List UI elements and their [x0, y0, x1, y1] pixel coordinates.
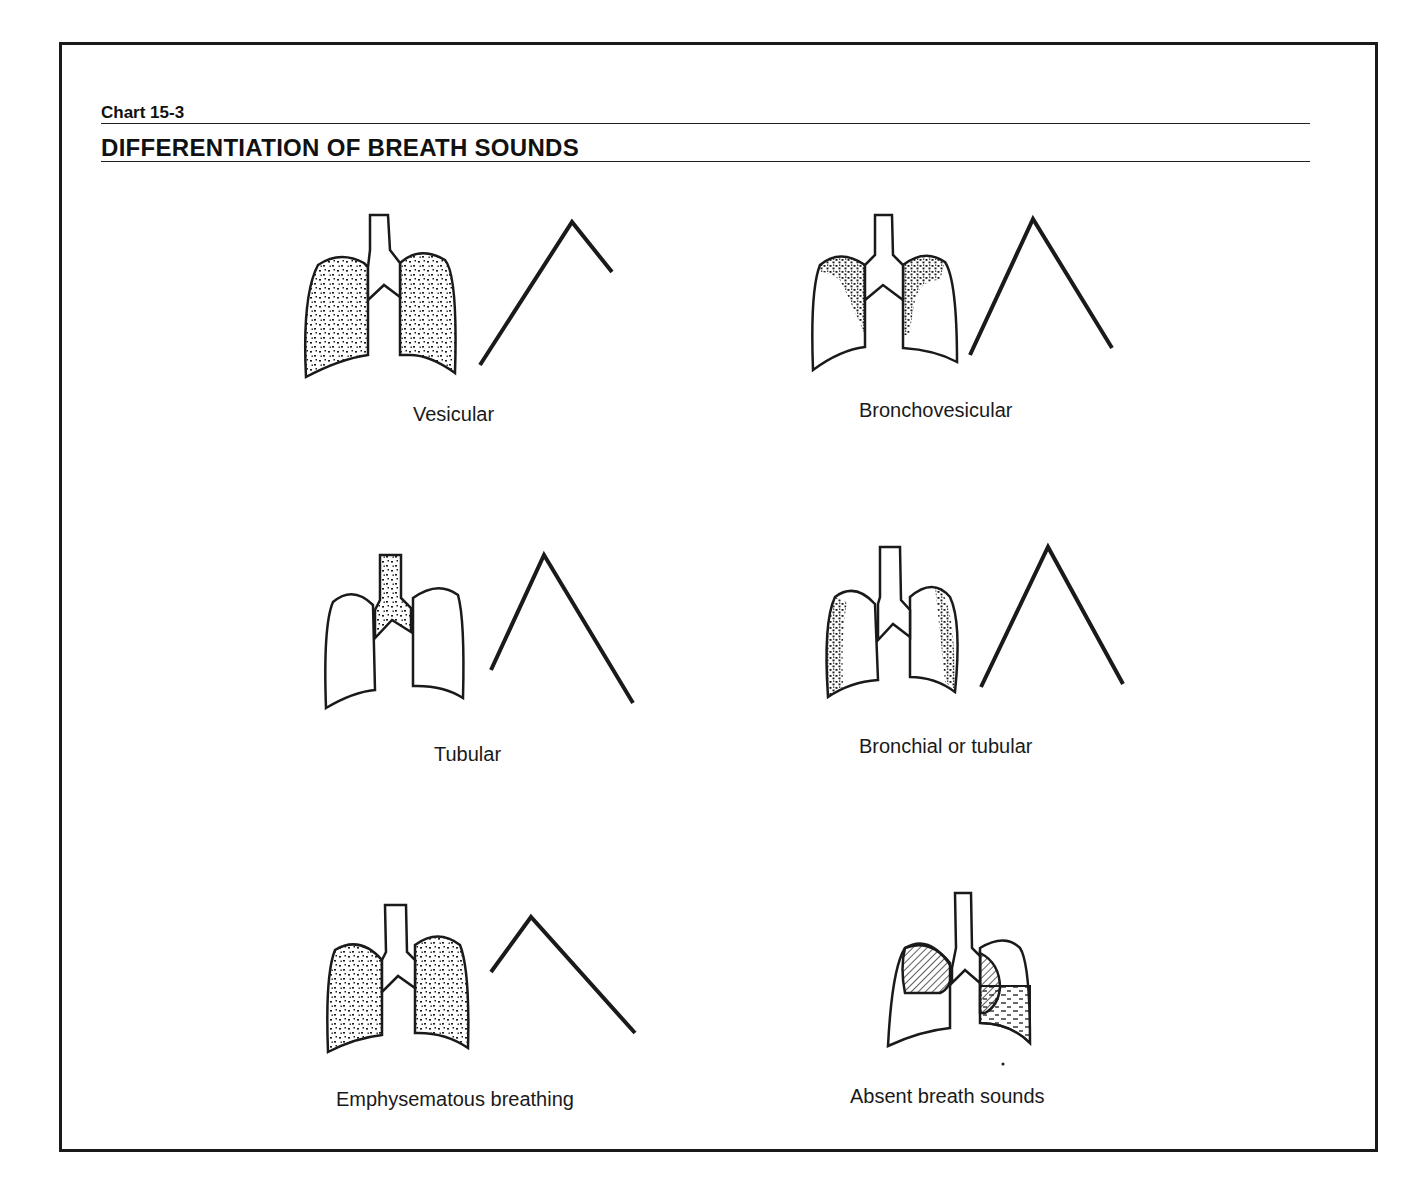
panel-absent	[880, 888, 1130, 1058]
panel-label-vesicular: Vesicular	[413, 403, 494, 426]
panel-tubular	[318, 550, 648, 720]
waveform-icon	[320, 900, 650, 1070]
waveform-icon	[805, 542, 1135, 712]
panel-bronchovesicular	[805, 210, 1135, 390]
panel-label-tubular: Tubular	[434, 743, 501, 766]
panel-label-bronchial: Bronchial or tubular	[859, 735, 1032, 758]
waveform-icon	[300, 205, 630, 385]
waveform-icon	[805, 210, 1135, 390]
panel-bronchial	[805, 542, 1135, 712]
header-rule-bottom	[101, 161, 1310, 162]
chart-number: Chart 15-3	[101, 103, 184, 123]
panel-label-absent: Absent breath sounds	[850, 1085, 1045, 1108]
header-rule-top	[101, 123, 1310, 124]
lung-diagram-icon	[880, 888, 1130, 1058]
panel-label-bronchovesicular: Bronchovesicular	[859, 399, 1012, 422]
waveform-icon	[318, 550, 648, 720]
chart-frame	[59, 42, 1378, 1152]
panel-vesicular	[300, 205, 630, 385]
chart-title: DIFFERENTIATION OF BREATH SOUNDS	[101, 134, 579, 162]
panel-label-emphysematous: Emphysematous breathing	[336, 1088, 574, 1111]
panel-emphysematous	[320, 900, 650, 1070]
